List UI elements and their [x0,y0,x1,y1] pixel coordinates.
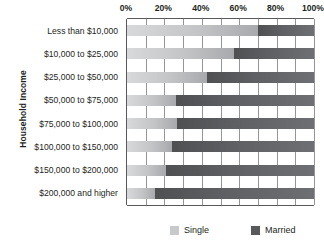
category-label-2: $25,000 to $50,000 [10,66,122,89]
category-label-1: $10,000 to $25,000 [10,42,122,65]
bar-segment-single[interactable] [127,141,172,152]
bar-segment-married[interactable] [258,25,314,36]
x-axis-tick-labels: 0% 20% 40% 60% 80% 100% [126,3,313,16]
chart-legend: Single Married [126,222,313,238]
stacked-bar[interactable] [127,118,314,129]
legend-swatch-married-icon [251,226,260,235]
bar-row [127,42,314,65]
category-label-3: $50,000 to $75,000 [10,89,122,112]
x-tick-label-100: 100% [302,3,324,13]
plot-area [126,19,314,205]
bar-segment-single[interactable] [127,48,234,59]
stacked-bar[interactable] [127,25,314,36]
bar-segment-married[interactable] [155,188,314,199]
bar-segment-married[interactable] [177,118,314,129]
bar-segment-married[interactable] [234,48,314,59]
bar-row [127,182,314,205]
category-label-6: $150,000 to $200,000 [10,159,122,182]
category-label-0: Less than $10,000 [10,19,122,42]
stacked-bar[interactable] [127,48,314,59]
axis-line-bottom [127,205,314,206]
bar-segment-married[interactable] [172,141,314,152]
bar-row [127,159,314,182]
bar-row [127,112,314,135]
x-tick-label-0: 0% [120,3,132,13]
stacked-bar[interactable] [127,72,314,83]
x-tick-label-80: 80% [267,3,284,13]
bar-row [127,135,314,158]
legend-item-single: Single [170,225,209,235]
bar-row [127,19,314,42]
bar-segment-single[interactable] [127,165,166,176]
category-label-5: $100,000 to $150,000 [10,135,122,158]
bar-segment-single[interactable] [127,25,258,36]
stacked-bar[interactable] [127,141,314,152]
bar-row [127,66,314,89]
bar-segment-single[interactable] [127,188,155,199]
stacked-bar[interactable] [127,95,314,106]
category-label-7: $200,000 and higher [10,182,122,205]
bar-segment-single[interactable] [127,118,177,129]
category-label-4: $75,000 to $100,000 [10,112,122,135]
legend-label-married: Married [265,225,296,235]
bar-segment-single[interactable] [127,72,207,83]
gridline-100 [314,19,315,205]
bar-segment-married[interactable] [207,72,314,83]
legend-label-single: Single [184,225,209,235]
bar-segment-single[interactable] [127,95,176,106]
bar-series-container [127,19,314,205]
stacked-bar[interactable] [127,165,314,176]
legend-swatch-single-icon [170,226,179,235]
x-tick-label-20: 20% [155,3,172,13]
x-tick-label-40: 40% [192,3,209,13]
bar-segment-married[interactable] [176,95,314,106]
stacked-bar[interactable] [127,188,314,199]
x-tick-label-60: 60% [230,3,247,13]
bar-segment-married[interactable] [166,165,314,176]
y-axis-category-labels: Less than $10,000 $10,000 to $25,000 $25… [10,19,122,205]
bar-row [127,89,314,112]
legend-item-married: Married [251,225,296,235]
